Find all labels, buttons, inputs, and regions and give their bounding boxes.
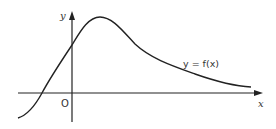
y-axis [69,11,75,122]
curve-label: y = f(x) [183,59,219,69]
origin-label: O [61,99,69,109]
function-graph [0,0,276,129]
x-axis-label: x [258,99,264,109]
x-axis-arrow-icon [254,90,263,96]
x-axis [18,90,263,96]
y-axis-label: y [60,11,66,21]
y-axis-arrow-icon [69,11,75,20]
